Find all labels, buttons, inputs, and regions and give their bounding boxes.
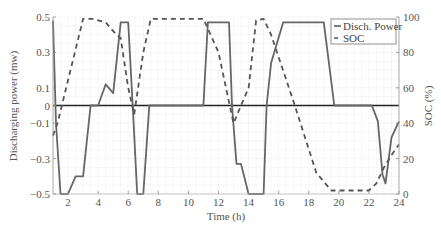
legend: Disch. Power SOC: [331, 19, 403, 44]
y2-axis-label: SOC (%): [422, 85, 435, 126]
y2-tick-label: 0: [403, 188, 409, 200]
y2-tick-label: 80: [403, 46, 415, 58]
y-tick-label: 0: [45, 100, 51, 112]
x-axis-label: Time (h): [207, 210, 246, 223]
legend-label-power: Disch. Power: [343, 20, 403, 32]
y2-tick-label: 40: [403, 117, 415, 129]
y-tick-label: 0.5: [36, 11, 50, 23]
y2-tick-label: 20: [403, 153, 415, 165]
y-tick-label: 0.1: [36, 82, 50, 94]
y-axis-label: Discharging power (mw): [7, 50, 20, 161]
x-tick-label: 14: [243, 196, 255, 208]
x-tick-label: 8: [156, 196, 162, 208]
y-tick-label: −0.5: [30, 188, 50, 200]
y2-tick-label: 100: [403, 11, 420, 23]
chart: 246810121416182022240.50.30.10−0.1−0.3−0…: [0, 0, 441, 236]
x-tick-label: 16: [273, 196, 285, 208]
x-tick-label: 18: [303, 196, 315, 208]
x-tick-label: 22: [363, 196, 374, 208]
y-tick-label: 0.3: [36, 46, 50, 58]
y2-tick-label: 60: [403, 82, 415, 94]
x-tick-label: 4: [95, 196, 101, 208]
x-tick-label: 10: [183, 196, 195, 208]
y-tick-label: −0.3: [30, 153, 50, 165]
legend-label-soc: SOC: [343, 32, 364, 44]
x-tick-label: 6: [125, 196, 131, 208]
x-tick-label: 2: [65, 196, 71, 208]
y-tick-label: −0.1: [30, 117, 50, 129]
x-tick-label: 20: [333, 196, 345, 208]
x-tick-label: 12: [213, 196, 224, 208]
